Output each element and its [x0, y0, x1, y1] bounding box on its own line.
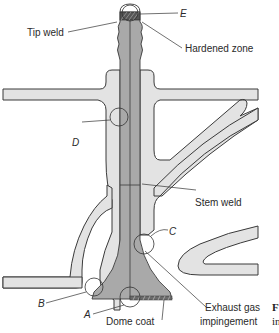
caption-fragment-line1: F: [272, 301, 279, 313]
label-tip-weld: Tip weld: [27, 27, 64, 38]
label-dome-coat: Dome coat: [106, 316, 155, 327]
label-zone-b: B: [38, 298, 45, 309]
caption-fragment-line2: in: [272, 315, 279, 327]
label-impingement: impingement: [200, 316, 257, 327]
label-zone-c: C: [169, 226, 177, 237]
valve-diagram: Tip weld E Hardened zone D Stem weld C B…: [0, 0, 279, 333]
label-zone-a: A: [83, 309, 91, 320]
label-zone-e: E: [180, 8, 187, 19]
label-zone-d: D: [72, 137, 79, 148]
label-stem-weld: Stem weld: [195, 197, 242, 208]
label-hardened-zone: Hardened zone: [185, 43, 254, 54]
label-exhaust-gas: Exhaust gas: [205, 302, 260, 313]
